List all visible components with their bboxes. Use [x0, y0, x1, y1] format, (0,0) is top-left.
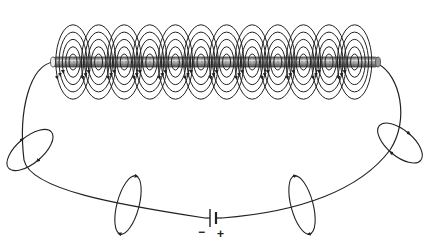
circuit-field-diagram — [0, 0, 428, 252]
battery-negative-label: − — [198, 226, 205, 238]
wire-field-loop — [284, 173, 321, 237]
battery-icon — [205, 209, 222, 227]
circuit-wire — [22, 62, 205, 218]
wire-field-loop — [0, 122, 60, 178]
battery-positive-label: + — [217, 228, 224, 240]
diagram: − + — [0, 0, 428, 252]
